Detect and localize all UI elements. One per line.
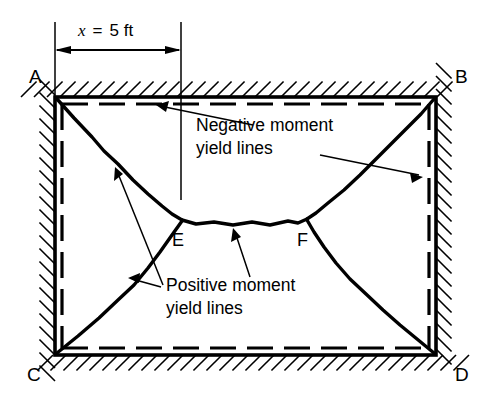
hatch-tick (436, 63, 452, 79)
hatch-tick (39, 274, 55, 290)
hatch-tick (242, 81, 258, 97)
hatch-tick (141, 355, 157, 371)
hatch-tick (372, 81, 388, 97)
hatch-tick (177, 81, 193, 97)
hatch-tick (245, 355, 261, 371)
hatch-tick (219, 355, 235, 371)
hatch-tick (436, 349, 452, 365)
leader-arrowhead-pos-center (231, 228, 241, 242)
corner-label-a: A (29, 66, 42, 87)
hatch-tick (440, 355, 456, 371)
positive-yield-line-D-F (307, 220, 434, 353)
positive-moment-leaders (114, 167, 250, 287)
hatch-tick (232, 355, 248, 371)
hatch-tick (128, 355, 144, 371)
hatch-tick (102, 355, 118, 371)
hatch-tick (398, 81, 414, 97)
hatch-tick (39, 157, 55, 173)
hatch-tick (297, 355, 313, 371)
hatch-tick (86, 81, 102, 97)
hatch-tick (427, 355, 443, 371)
hatch-tick (154, 355, 170, 371)
hatch-tick (436, 193, 452, 209)
leader-line-neg-right (320, 155, 419, 175)
hatch-tick (385, 81, 401, 97)
hatch-tick (39, 300, 55, 316)
figure-canvas: x=5 ft A B C D E F Negative moment yield… (0, 0, 487, 404)
hatch-tick (39, 222, 55, 238)
leader-arrowhead-pos-lower (128, 273, 140, 283)
hatch-tick (60, 81, 76, 97)
hatch-tick (39, 170, 55, 186)
hatch-tick (310, 355, 326, 371)
hatch-tick (39, 92, 55, 108)
positive-yield-line-A-E (57, 99, 182, 220)
hatch-tick (436, 284, 452, 300)
hatch-tick (375, 355, 391, 371)
hatch-tick (63, 355, 79, 371)
hatch-tick (436, 141, 452, 157)
hatch-tick (99, 81, 115, 97)
hatch-tick (112, 81, 128, 97)
dimension-arrowhead-left (55, 46, 71, 54)
hatch-tick (193, 355, 209, 371)
hatch-tick (346, 81, 362, 97)
hatch-tick (323, 355, 339, 371)
hatch-tick (436, 297, 452, 313)
hatch-tick (39, 105, 55, 121)
hatch-right-edge (436, 63, 452, 365)
hatch-tick (436, 232, 452, 248)
negative-moment-label-line2: yield lines (196, 138, 273, 158)
corner-label-c: C (27, 364, 41, 385)
hatch-tick (307, 81, 323, 97)
hatch-tick (255, 81, 271, 97)
slab-boundary (55, 97, 436, 355)
corner-label-b: B (455, 66, 468, 87)
node-label-f: F (297, 230, 308, 250)
hatch-bottom-edge (37, 355, 469, 371)
hatch-tick (115, 355, 131, 371)
hatch-tick (167, 355, 183, 371)
hatch-tick (436, 128, 452, 144)
hatch-tick (151, 81, 167, 97)
hatch-tick (436, 336, 452, 352)
hatch-tick (436, 271, 452, 287)
hatch-tick (164, 81, 180, 97)
hatch-tick (336, 355, 352, 371)
hatch-tick (436, 310, 452, 326)
hatch-tick (294, 81, 310, 97)
hatch-tick (138, 81, 154, 97)
hatch-tick (436, 258, 452, 274)
hatch-tick (281, 81, 297, 97)
hatch-tick (39, 118, 55, 134)
hatch-tick (349, 355, 365, 371)
hatch-tick (229, 81, 245, 97)
hatch-tick (76, 355, 92, 371)
dimension-value: 5 ft (109, 21, 133, 40)
positive-moment-label-line1: Positive moment (166, 275, 295, 295)
hatch-tick (39, 326, 55, 342)
corner-label-d: D (455, 364, 469, 385)
hatch-tick (436, 323, 452, 339)
hatch-tick (203, 81, 219, 97)
hatch-tick (436, 167, 452, 183)
hatch-top-edge (21, 81, 453, 97)
hatch-tick (39, 183, 55, 199)
dimension-arrowhead-right (165, 46, 181, 54)
hatch-tick (39, 313, 55, 329)
hatch-tick (50, 355, 66, 371)
hatch-tick (39, 196, 55, 212)
hatch-tick (89, 355, 105, 371)
hatch-tick (125, 81, 141, 97)
positive-yield-line-E-F (182, 219, 307, 225)
hatch-tick (411, 81, 427, 97)
positive-moment-label-line2: yield lines (166, 298, 243, 318)
hatch-tick (436, 219, 452, 235)
hatch-tick (39, 131, 55, 147)
hatch-tick (333, 81, 349, 97)
dimension-equals: = (93, 21, 103, 40)
hatch-tick (401, 355, 417, 371)
hatch-tick (436, 206, 452, 222)
dimension-label: x=5 ft (77, 21, 133, 40)
negative-moment-label-line1: Negative moment (196, 115, 333, 135)
